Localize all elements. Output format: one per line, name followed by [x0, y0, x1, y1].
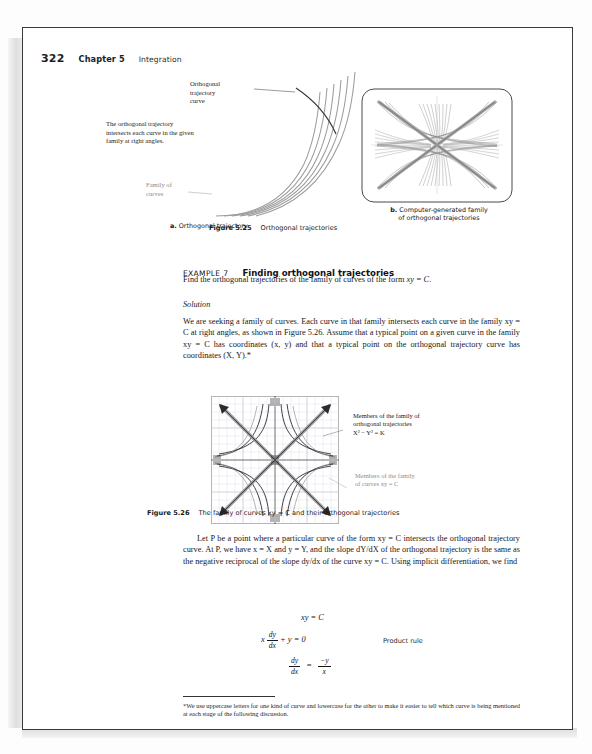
equation-2-tail: + y = 0	[280, 635, 306, 644]
textbook-page: 322 Chapter 5 Integration	[22, 27, 573, 730]
solution-paragraph: We are seeking a family of curves. Each …	[183, 316, 520, 362]
section-label: Integration	[139, 55, 182, 64]
equation-2-x: x	[261, 635, 265, 644]
equation-3-equals: =	[302, 661, 316, 670]
figure-5-26-caption: Figure 5.26 The family of curves xy = C …	[147, 509, 399, 517]
derivation-paragraph: Let P be a point where a particular curv…	[183, 533, 520, 567]
example-statement-post: .	[429, 275, 431, 284]
equation-3-left-numerator: dy	[289, 657, 300, 665]
label-family-of-curves: Family of curves	[146, 181, 190, 198]
label-right-angles-note: The orthogonal trajectory intersects eac…	[106, 120, 238, 146]
figure-5-25-number: Figure 5.25	[209, 224, 251, 232]
page-number: 322	[41, 52, 65, 65]
example-statement: Find the orthogonal trajectories of the …	[183, 274, 520, 285]
equation-2-fraction: dy dx	[267, 631, 278, 649]
caption-b-text: Computer-generated family of orthogonal …	[398, 206, 487, 222]
equation-3-left-fraction: dy dx	[289, 657, 300, 675]
hyperbola-graph	[211, 396, 339, 524]
computer-generated-family-diagram	[361, 88, 513, 208]
equation-3: dy dx = −y x	[289, 657, 331, 675]
label-orthogonal-trajectory-curve: Orthogonal trajectory curve	[190, 80, 252, 106]
equation-3-right-numerator: −y	[318, 657, 331, 665]
figure-5-25-panel-b: b. Computer-generated family of orthogon…	[361, 88, 513, 208]
caption-b-letter: b.	[390, 206, 397, 214]
running-head: 322 Chapter 5 Integration	[41, 52, 182, 65]
figure-5-26-graph	[211, 396, 339, 524]
example-statement-pre: Find the orthogonal trajectories of the …	[183, 275, 407, 284]
figure-5-25-caption-text: Orthogonal trajectories	[261, 224, 338, 232]
figure-5-26-caption-text: The family of curves xy = C and their or…	[199, 509, 400, 517]
footnote-rule	[183, 696, 275, 697]
annotation-orthogonal-trajectories: Members of the family of orthogonal traj…	[353, 412, 503, 437]
equation-1: xy = C	[301, 613, 324, 622]
chapter-label: Chapter 5	[79, 54, 125, 64]
figure-5-26-number: Figure 5.26	[147, 509, 189, 517]
equation-2: x dy dx + y = 0	[261, 631, 306, 649]
example-statement-math: xy = C	[407, 275, 430, 284]
equation-2-denominator: dx	[267, 642, 278, 650]
equation-3-right-denominator: x	[318, 668, 331, 676]
footnote-text: *We use uppercase letters for one kind o…	[183, 702, 520, 719]
figure-5-26: Members of the family of orthogonal traj…	[23, 396, 574, 546]
figure-5-25-caption: Figure 5.25 Orthogonal trajectories	[209, 224, 337, 232]
equation-2-numerator: dy	[267, 631, 278, 639]
solution-heading: Solution	[183, 300, 210, 309]
annotation-family-of-curves: Members of the family of curves xy = C	[355, 472, 505, 489]
equation-2-note: Product rule	[383, 637, 423, 645]
caption-a-letter: a.	[170, 222, 177, 230]
figure-5-25-panel-a: Orthogonal trajectory curve The orthogon…	[128, 80, 343, 220]
equation-3-right-fraction: −y x	[318, 657, 331, 675]
equation-3-left-denominator: dx	[289, 668, 300, 676]
